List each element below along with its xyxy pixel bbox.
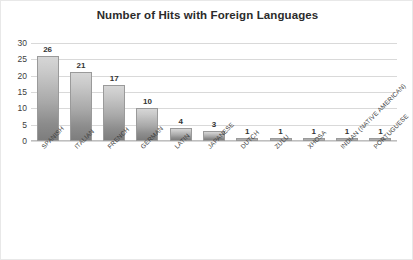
bar-value-label: 10 — [143, 98, 152, 106]
bar-value-label: 17 — [110, 75, 119, 83]
bar-value-label: 21 — [76, 62, 85, 70]
bar-slot: 21 — [70, 43, 92, 141]
y-axis-tick-label: 20 — [1, 71, 27, 80]
y-axis: 051015202530 — [1, 43, 27, 141]
y-axis-tick-label: 25 — [1, 55, 27, 64]
bar-slot: 1 — [270, 43, 292, 141]
chart-container: Number of Hits with Foreign Languages 05… — [0, 0, 413, 260]
x-axis: SPANISHITALIANFRENCHGERMANLATINJAPANESED… — [31, 143, 397, 255]
bar-value-label: 4 — [178, 118, 182, 126]
bar-slot: 3 — [203, 43, 225, 141]
bar-slot: 10 — [136, 43, 158, 141]
bar-slot: 1 — [236, 43, 258, 141]
y-axis-tick-label: 5 — [1, 120, 27, 129]
y-axis-tick-label: 10 — [1, 104, 27, 113]
plot-area: 262117104311111 — [31, 43, 397, 141]
bar-slot: 17 — [103, 43, 125, 141]
bar-slot: 4 — [170, 43, 192, 141]
y-axis-tick-label: 30 — [1, 39, 27, 48]
y-axis-tick-label: 15 — [1, 88, 27, 97]
bar-slot: 1 — [303, 43, 325, 141]
y-axis-tick-label: 0 — [1, 137, 27, 146]
bar-slot: 1 — [336, 43, 358, 141]
bar-slot: 1 — [369, 43, 391, 141]
bar-value-label: 26 — [43, 46, 52, 54]
chart-title: Number of Hits with Foreign Languages — [1, 9, 413, 21]
bar-value-label: 3 — [212, 121, 216, 129]
bar-slot: 26 — [37, 43, 59, 141]
